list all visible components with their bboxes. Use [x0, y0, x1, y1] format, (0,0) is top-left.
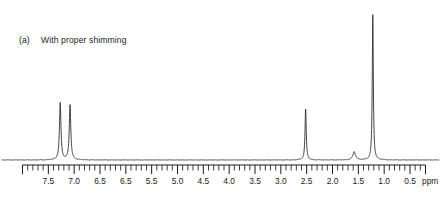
axis-tick-label: 1.5: [353, 176, 365, 187]
axis-tick-label: 4.5: [198, 176, 210, 187]
spectrum-trace: [0, 0, 441, 166]
axis-tick-labels: 7.57.06.56.55.55.04.54.03.53.02.52.01.51…: [0, 176, 441, 190]
axis-tick-label: 5.0: [172, 176, 184, 187]
nmr-spectrum-figure: (a)With proper shimming 7.57.06.56.55.55…: [0, 0, 441, 202]
axis-tick-label: 7.5: [43, 176, 55, 187]
axis-tick-label: 5.5: [146, 176, 158, 187]
axis-tick-label: 3.5: [249, 176, 261, 187]
axis-tick-label: 7.0: [68, 176, 80, 187]
axis-tick-label: 6.5: [120, 176, 132, 187]
axis-tick-label: 2.5: [301, 176, 313, 187]
axis-tick-label: 6.5: [94, 176, 106, 187]
axis-tick-label: 2.0: [327, 176, 339, 187]
axis-tick-marks: [23, 165, 426, 174]
axis-tick-label: 0.5: [404, 176, 416, 187]
axis-unit-label: ppm: [422, 176, 438, 187]
axis-tick-label: 1.0: [378, 176, 390, 187]
axis-tick-label: 4.0: [223, 176, 235, 187]
axis-tick-label: 3.0: [275, 176, 287, 187]
spectrum-line: [2, 15, 439, 160]
